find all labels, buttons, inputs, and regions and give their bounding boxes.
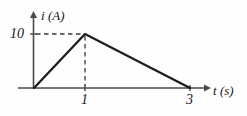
current-time-graph-figure: 10 1 3 i (A) t (s): [0, 0, 247, 116]
x-axis-arrow-icon: [204, 84, 211, 91]
y-axis-title: i (A): [41, 9, 64, 22]
x-axis-tick-label-3: 3: [186, 93, 193, 107]
plot-area: [0, 0, 247, 116]
y-axis-arrow-icon: [30, 11, 37, 18]
x-axis-title-unit: (s): [220, 83, 234, 98]
y-axis-title-unit: (A): [48, 8, 65, 23]
x-axis-tick-label-1: 1: [81, 93, 88, 107]
current-waveform-line: [34, 34, 190, 88]
x-axis-title: t (s): [213, 84, 234, 97]
y-axis-tick-label-10: 10: [10, 27, 24, 41]
